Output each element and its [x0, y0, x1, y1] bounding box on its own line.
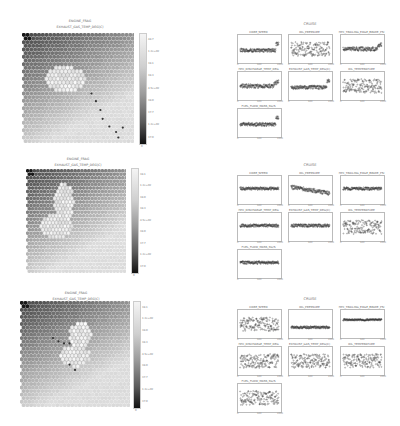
x-tick-label: 1000	[328, 338, 334, 341]
x-tick-label: 500	[308, 63, 312, 66]
scatter-subplot	[237, 309, 282, 339]
x-tick-label: 0	[288, 241, 289, 244]
x-tick-label: 0	[237, 63, 238, 66]
colorbar-tick-label: 4.5e+02	[148, 87, 159, 90]
colorbar-tick-label: 4.5e+02	[142, 353, 153, 356]
x-tick-label: 500	[308, 241, 312, 244]
x-tick-label: 1000	[277, 137, 283, 140]
x-tick-label: 500	[257, 241, 261, 244]
colorbar-tick-label: 38.1	[142, 306, 148, 309]
scatter-subplot	[340, 34, 385, 64]
hex-map	[20, 301, 130, 407]
colorbar-tick-label: 38.3	[140, 207, 146, 210]
x-tick-label: 1000	[380, 241, 386, 244]
scatter-subplot	[340, 212, 385, 242]
scatter-subplot	[288, 175, 333, 205]
x-tick-label: 500	[257, 204, 261, 207]
x-tick-label: 0	[340, 241, 341, 244]
colorbar-tick-label: 37.7	[148, 111, 154, 114]
x-tick-label: 500	[360, 100, 364, 103]
x-tick-label: 1000	[328, 100, 334, 103]
x-tick-label: 500	[360, 375, 364, 378]
x-tick-label: 500	[257, 278, 261, 281]
x-tick-label: 500	[257, 412, 261, 415]
colorbar-tick-label: 38.0	[140, 196, 146, 199]
colorbar-footer: 0	[141, 145, 143, 148]
x-tick-label: 500	[360, 204, 364, 207]
x-tick-label: 500	[360, 241, 364, 244]
colorbar	[139, 33, 147, 145]
colorbar-footer: 0	[135, 409, 137, 412]
colorbar-tick-label: 38.3	[148, 74, 154, 77]
x-tick-label: 500	[308, 375, 312, 378]
x-tick-label: 0	[237, 278, 238, 281]
scatter-subplot	[288, 71, 333, 101]
colorbar-tick-label: 1.2e+02	[148, 50, 159, 53]
x-tick-label: 1000	[328, 241, 334, 244]
scatter-subplot	[237, 383, 282, 413]
x-tick-label: 500	[308, 100, 312, 103]
x-tick-label: 0	[288, 338, 289, 341]
colorbar-tick-label: 38.0	[142, 364, 148, 367]
x-tick-label: 500	[360, 63, 364, 66]
scatter-group-title: CRUISE	[230, 22, 390, 26]
scatter-subplot	[237, 249, 282, 279]
x-tick-label: 0	[237, 204, 238, 207]
scatter-subplot	[340, 309, 385, 339]
hex-map	[22, 33, 134, 143]
x-tick-label: 1000	[380, 100, 386, 103]
scatter-subplot	[237, 212, 282, 242]
x-tick-label: 500	[257, 137, 261, 140]
scatter-subplot	[288, 34, 333, 64]
x-tick-label: 500	[360, 338, 364, 341]
colorbar-tick-label: 1.2e+02	[142, 388, 153, 391]
scatter-group-title: CRUISE	[230, 163, 390, 167]
colorbar-tick-label: 1.2e+02	[148, 123, 159, 126]
x-tick-label: 1000	[277, 338, 283, 341]
hex-map	[26, 169, 126, 273]
scatter-subplot	[237, 34, 282, 64]
scatter-subplot	[237, 175, 282, 205]
map-subtitle: EXHAUST_GAS_TEMP_DEG(C)	[0, 163, 158, 167]
x-tick-label: 0	[237, 338, 238, 341]
scatter-subplot	[288, 309, 333, 339]
x-tick-label: 1000	[380, 338, 386, 341]
x-tick-label: 0	[237, 412, 238, 415]
colorbar-tick-label: 48.7	[148, 38, 154, 41]
x-tick-label: 0	[288, 100, 289, 103]
x-tick-label: 0	[340, 63, 341, 66]
colorbar-tick-label: 37.0	[140, 265, 146, 268]
map-subtitle: EXHAUST_GAS_TEMP_DEG(C)	[0, 25, 160, 29]
x-tick-label: 0	[340, 204, 341, 207]
colorbar	[133, 301, 141, 409]
colorbar-tick-label: 1.2e+02	[140, 184, 151, 187]
x-tick-label: 0	[237, 100, 238, 103]
colorbar-tick-label: 37.7	[142, 376, 148, 379]
scatter-subplot	[288, 212, 333, 242]
colorbar-tick-label: 38.1	[148, 62, 154, 65]
scatter-subplot	[288, 346, 333, 376]
x-tick-label: 0	[340, 375, 341, 378]
x-tick-label: 0	[237, 137, 238, 140]
x-tick-label: 0	[340, 100, 341, 103]
colorbar-tick-label: 38.0	[140, 230, 146, 233]
colorbar-tick-label: 37.7	[140, 242, 146, 245]
x-tick-label: 0	[288, 375, 289, 378]
colorbar-tick-label: 1.2e+02	[142, 317, 153, 320]
x-tick-label: 1000	[277, 278, 283, 281]
x-tick-label: 500	[308, 338, 312, 341]
x-tick-label: 0	[288, 204, 289, 207]
scatter-group-title: CRUISE	[230, 297, 390, 301]
x-tick-label: 1000	[328, 63, 334, 66]
map-title: ENGINE_FRAG	[0, 157, 158, 161]
colorbar-tick-label: 37.0	[142, 400, 148, 403]
x-tick-label: 0	[237, 375, 238, 378]
x-tick-label: 500	[257, 375, 261, 378]
scatter-subplot	[237, 346, 282, 376]
x-tick-label: 1000	[328, 375, 334, 378]
colorbar-tick-label: 1.2e+02	[140, 253, 151, 256]
scatter-subplot	[237, 71, 282, 101]
colorbar	[131, 168, 139, 274]
x-tick-label: 500	[257, 63, 261, 66]
scatter-subplot	[340, 175, 385, 205]
